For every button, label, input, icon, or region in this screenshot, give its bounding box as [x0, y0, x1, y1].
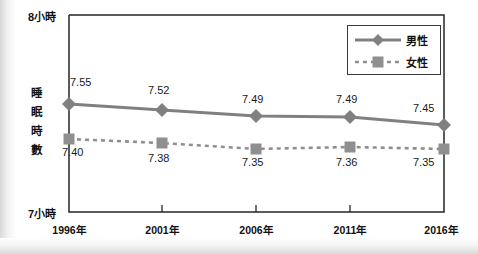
- legend-label-male: 男性: [406, 32, 428, 48]
- female-marker: [345, 142, 356, 153]
- chart-page: 睡 眠 時 數 8小時 7小時 1996年 2001年 2006年 2011年 …: [0, 0, 478, 254]
- legend-sample-male: [352, 32, 404, 48]
- legend-item-female: 女性: [348, 53, 440, 71]
- male-marker: [343, 110, 357, 124]
- male-marker: [249, 109, 263, 123]
- series-female: [64, 134, 450, 155]
- male-marker: [155, 103, 169, 117]
- female-marker: [64, 134, 75, 145]
- series-male: [62, 97, 451, 132]
- female-marker: [157, 138, 168, 149]
- male-marker: [437, 118, 451, 132]
- female-marker: [251, 144, 262, 155]
- chart-legend: 男性 女性: [347, 25, 441, 75]
- female-marker: [439, 144, 450, 155]
- legend-item-male: 男性: [348, 31, 440, 49]
- male-marker: [62, 97, 76, 111]
- legend-sample-female: [352, 54, 404, 70]
- legend-label-female: 女性: [406, 54, 428, 70]
